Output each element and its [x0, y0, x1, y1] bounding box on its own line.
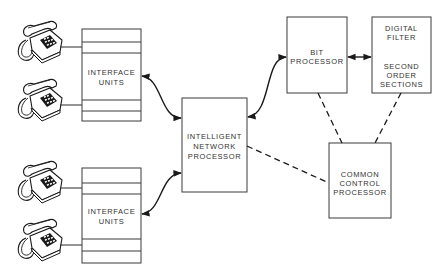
digital-filter-label-3: SECOND: [384, 62, 420, 71]
inp-label-1: INTELLIGENT: [187, 132, 242, 141]
ccp-label-3: PROCESSOR: [333, 188, 386, 197]
interface-units-bottom-label-2: UNITS: [99, 217, 125, 226]
bit-processor-label-2: PROCESSOR: [290, 57, 343, 66]
ccp-label-2: CONTROL: [340, 179, 381, 188]
block-diagram: INTERFACE UNITS INTERFACE UNITS INTELLIG…: [0, 0, 444, 278]
bit-processor: BIT PROCESSOR: [287, 17, 347, 93]
edge-iu-top-to-inp: [142, 76, 181, 118]
interface-units-bottom-label-1: INTERFACE: [88, 207, 136, 216]
telephone-icon: [18, 21, 62, 63]
common-control-processor: COMMON CONTROL PROCESSOR: [329, 143, 391, 218]
inp-label-2: NETWORK: [193, 142, 236, 151]
bit-processor-label-1: BIT: [310, 48, 323, 57]
intelligent-network-processor: INTELLIGENT NETWORK PROCESSOR: [182, 98, 247, 192]
edge-inp-to-bit: [248, 57, 286, 117]
telephone-icon: [18, 219, 62, 261]
inp-label-3: PROCESSOR: [188, 152, 241, 161]
telephone-icon: [18, 161, 62, 203]
interface-units-top: INTERFACE UNITS: [82, 29, 141, 121]
ccp-label-1: COMMON: [341, 170, 380, 179]
digital-filter-label-5: SECTIONS: [380, 80, 423, 89]
interface-units-top-label-1: INTERFACE: [88, 68, 136, 77]
edge-iu-bottom-to-inp: [142, 173, 181, 214]
digital-filter-label-1: DIGITAL: [385, 24, 418, 33]
edge-inp-to-ccp: [247, 146, 329, 183]
interface-units-bottom: INTERFACE UNITS: [82, 168, 141, 263]
digital-filter: DIGITAL FILTER SECOND ORDER SECTIONS: [372, 17, 431, 93]
digital-filter-label-4: ORDER: [386, 71, 416, 80]
interface-units-top-label-2: UNITS: [99, 78, 125, 87]
telephone-icon: [18, 79, 62, 121]
digital-filter-label-2: FILTER: [387, 33, 416, 42]
edge-bit-to-ccp: [318, 93, 342, 143]
edge-filter-to-ccp: [375, 93, 401, 143]
